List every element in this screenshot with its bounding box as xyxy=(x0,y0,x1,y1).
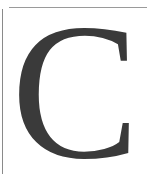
drop-cap-letter: C xyxy=(11,0,139,174)
drop-cap: C xyxy=(0,0,147,174)
